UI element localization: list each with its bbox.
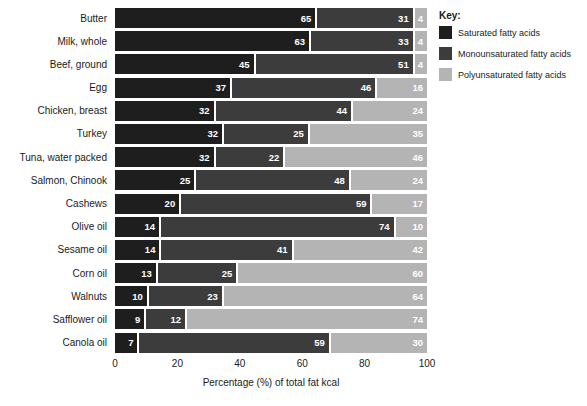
value-label: 44	[337, 105, 352, 116]
stacked-bar: 324424	[115, 101, 427, 121]
bar-segment-monounsaturated: 12	[146, 309, 185, 329]
bar-segment-polyunsaturated: 10	[396, 217, 427, 237]
bar-segment-monounsaturated: 46	[232, 78, 375, 98]
bar-segment-monounsaturated: 33	[311, 31, 413, 51]
category-label: Canola oil	[0, 337, 115, 348]
value-label: 4	[418, 59, 427, 70]
value-label: 65	[301, 13, 316, 24]
legend-item: Saturated fatty acids	[439, 26, 585, 39]
stacked-bar-chart: Butter65314Milk, whole63334Beef, ground4…	[0, 0, 587, 406]
bar-segment-saturated: 32	[115, 101, 214, 121]
bar-segment-saturated: 37	[115, 78, 230, 98]
x-tick: 80	[359, 358, 370, 369]
bar-row: Olive oil147410	[0, 217, 427, 237]
bar-segment-polyunsaturated: 42	[294, 240, 427, 260]
bar-segment-monounsaturated: 22	[216, 147, 284, 167]
legend-item: Polyunsaturated fatty acids	[439, 68, 585, 81]
bar-row: Tuna, water packed322246	[0, 147, 427, 167]
x-axis-ticks: 020406080100	[115, 358, 427, 370]
bar-segment-monounsaturated: 74	[161, 217, 394, 237]
value-label: 46	[361, 82, 376, 93]
category-label: Sesame oil	[0, 244, 115, 255]
value-label: 41	[277, 244, 292, 255]
legend-label: Saturated fatty acids	[458, 28, 540, 38]
value-label: 13	[141, 268, 156, 279]
bar-row: Butter65314	[0, 8, 427, 28]
bar-segment-polyunsaturated: 64	[224, 286, 427, 306]
bar-segment-monounsaturated: 25	[224, 124, 308, 144]
bar-segment-polyunsaturated: 60	[238, 263, 427, 283]
bar-segment-polyunsaturated: 46	[285, 147, 427, 167]
value-label: 51	[398, 59, 413, 70]
category-label: Olive oil	[0, 221, 115, 232]
legend-items: Saturated fatty acidsMonounsaturated fat…	[439, 26, 585, 81]
value-label: 17	[412, 198, 427, 209]
value-label: 4	[418, 36, 427, 47]
bar-row: Chicken, breast324424	[0, 101, 427, 121]
value-label: 74	[379, 221, 394, 232]
x-tick: 0	[112, 358, 118, 369]
bar-segment-monounsaturated: 59	[139, 333, 328, 353]
stacked-bar: 91274	[115, 309, 427, 329]
category-label: Butter	[0, 13, 115, 24]
category-label: Cashews	[0, 198, 115, 209]
value-label: 14	[144, 221, 159, 232]
value-label: 25	[222, 268, 237, 279]
bar-segment-polyunsaturated: 30	[331, 333, 427, 353]
value-label: 25	[180, 175, 195, 186]
value-label: 37	[216, 82, 231, 93]
legend-label: Monounsaturated fatty acids	[458, 49, 571, 59]
value-label: 10	[132, 291, 147, 302]
bar-segment-monounsaturated: 25	[158, 263, 237, 283]
stacked-bar: 254824	[115, 170, 427, 190]
category-label: Egg	[0, 82, 115, 93]
stacked-bar: 45514	[115, 54, 427, 74]
category-label: Beef, ground	[0, 59, 115, 70]
x-tick: 60	[297, 358, 308, 369]
stacked-bar: 75930	[115, 333, 427, 353]
bar-segment-polyunsaturated: 4	[415, 31, 427, 51]
bar-segment-monounsaturated: 51	[256, 54, 413, 74]
bar-row: Egg374616	[0, 78, 427, 98]
stacked-bar: 322535	[115, 124, 427, 144]
category-label: Safflower oil	[0, 314, 115, 325]
bar-rows: Butter65314Milk, whole63334Beef, ground4…	[0, 8, 427, 356]
value-label: 33	[398, 36, 413, 47]
x-tick: 20	[172, 358, 183, 369]
stacked-bar: 205917	[115, 194, 427, 214]
bar-segment-polyunsaturated: 4	[415, 54, 427, 74]
bar-row: Beef, ground45514	[0, 54, 427, 74]
bar-segment-saturated: 10	[115, 286, 147, 306]
bar-segment-polyunsaturated: 74	[187, 309, 427, 329]
legend-label: Polyunsaturated fatty acids	[458, 70, 566, 80]
bar-row: Corn oil132560	[0, 263, 427, 283]
stacked-bar: 147410	[115, 217, 427, 237]
value-label: 74	[412, 314, 427, 325]
value-label: 9	[135, 314, 144, 325]
legend-swatch-saturated	[439, 26, 452, 39]
bar-row: Safflower oil91274	[0, 309, 427, 329]
value-label: 63	[294, 36, 309, 47]
category-label: Tuna, water packed	[0, 152, 115, 163]
value-label: 4	[418, 13, 427, 24]
legend-swatch-polyunsaturated	[439, 68, 452, 81]
category-label: Milk, whole	[0, 36, 115, 47]
bar-row: Cashews205917	[0, 194, 427, 214]
legend: Key: Saturated fatty acidsMonounsaturate…	[439, 10, 585, 89]
legend-swatch-monounsaturated	[439, 47, 452, 60]
bar-segment-polyunsaturated: 4	[415, 8, 427, 28]
bar-segment-monounsaturated: 23	[149, 286, 222, 306]
value-label: 31	[398, 13, 413, 24]
value-label: 48	[334, 175, 349, 186]
stacked-bar: 322246	[115, 147, 427, 167]
stacked-bar: 144142	[115, 240, 427, 260]
bar-segment-polyunsaturated: 24	[353, 101, 427, 121]
bar-segment-monounsaturated: 31	[317, 8, 412, 28]
bar-row: Sesame oil144142	[0, 240, 427, 260]
bar-segment-saturated: 14	[115, 240, 159, 260]
value-label: 7	[128, 337, 137, 348]
value-label: 32	[199, 152, 214, 163]
bar-segment-monounsaturated: 44	[216, 101, 352, 121]
bar-segment-saturated: 13	[115, 263, 156, 283]
stacked-bar: 374616	[115, 78, 427, 98]
